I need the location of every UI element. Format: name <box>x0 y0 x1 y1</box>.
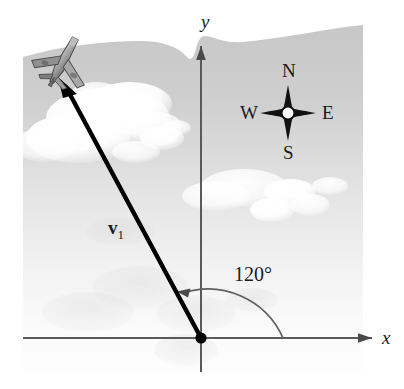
y-axis-label: y <box>201 12 209 31</box>
vector-diagram-figure: y x v1 120° N S E W <box>0 0 404 389</box>
compass-label-south: S <box>283 143 294 162</box>
compass-label-east: E <box>322 103 334 122</box>
angle-label: 120° <box>234 264 272 284</box>
x-axis-label: x <box>382 328 390 347</box>
vector-label-symbol: v <box>108 217 118 238</box>
vector-label-subscript: 1 <box>118 227 125 242</box>
origin-dot-icon <box>195 332 206 343</box>
compass-label-north: N <box>282 61 296 80</box>
figure-canvas <box>0 0 404 389</box>
compass-label-west: W <box>240 103 258 122</box>
vector-label: v1 <box>108 218 124 241</box>
